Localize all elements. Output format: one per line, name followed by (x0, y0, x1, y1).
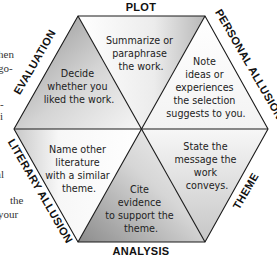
label-plot: PLOT (126, 1, 157, 13)
margin-fragment: al (0, 168, 4, 180)
margin-fragment: your (0, 208, 19, 220)
margin-fragment: hen (0, 48, 14, 60)
margin-fragment: the (10, 194, 24, 206)
hexagon-diagram: hen go- - i al the your PLOT ANALYSIS EV… (0, 0, 277, 259)
margin-fragment: go- (0, 62, 13, 74)
margin-fragment: i (0, 110, 3, 122)
margin-fragment: - (0, 98, 4, 110)
label-analysis: ANALYSIS (112, 245, 169, 257)
